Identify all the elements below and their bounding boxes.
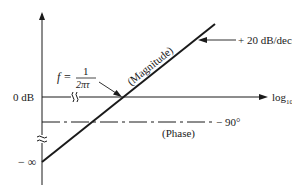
fraction-denominator: 2πτ: [76, 79, 90, 90]
x-axis-label: log10f: [272, 91, 292, 106]
fraction-numerator: 1: [83, 65, 89, 77]
zero-db-label: 0 dB: [13, 91, 34, 103]
phase-value-label: − 90°: [216, 116, 240, 128]
bode-diagram: 0 dB − ∞ log10f − 90° (Phase) + 20 dB/de…: [0, 0, 292, 194]
axis-arrow-up-icon: [39, 12, 45, 20]
f-equals-label: f =: [57, 70, 71, 84]
slope-label: + 20 dB/decade: [238, 34, 292, 46]
magnitude-label: (Magnitude): [125, 44, 176, 89]
horizontal-axis-0db: [42, 92, 268, 102]
neg-infinity-label: − ∞: [18, 155, 36, 169]
pointer-arrow-icon: [113, 90, 122, 97]
corner-frequency-label: f = 1 2πτ: [57, 65, 96, 90]
slope-pointer: [198, 37, 236, 43]
slope-arrow-icon: [198, 37, 207, 43]
magnitude-line: [42, 24, 215, 162]
corner-frequency-pointer: [99, 82, 122, 97]
axis-arrow-right-icon: [259, 94, 268, 100]
phase-label: (Phase): [162, 127, 195, 140]
